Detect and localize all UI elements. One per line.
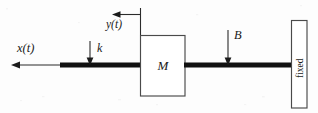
spring-label: k [97, 41, 103, 55]
damper-label: B [234, 28, 242, 42]
diagram-canvas: x(t) k y(t) M B fixed [0, 0, 318, 113]
x-displacement-label: x(t) [16, 41, 34, 55]
y-displacement-label: y(t) [105, 18, 122, 31]
mass-spring-damper-figure: x(t) k y(t) M B fixed [0, 0, 318, 113]
fixed-wall-label: fixed [295, 58, 305, 78]
mass-label: M [156, 58, 169, 73]
